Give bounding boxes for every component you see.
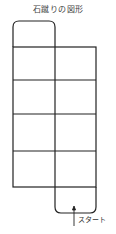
start-label: スタート [78,214,106,224]
top-rounded-box [13,21,55,47]
start-arrow-icon [73,206,76,226]
hopscotch-diagram [0,0,116,234]
